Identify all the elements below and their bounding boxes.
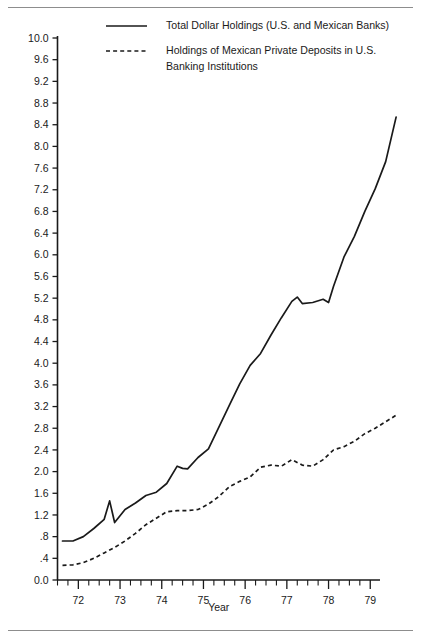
line-chart: 10.09.69.28.88.48.07.67.26.86.46.05.65.2… bbox=[0, 0, 421, 638]
y-tick-label: 4.8 bbox=[34, 313, 49, 325]
y-tick-label: 2.4 bbox=[34, 444, 49, 456]
y-axis-labels: 10.09.69.28.88.48.07.67.26.86.46.05.65.2… bbox=[28, 32, 49, 586]
x-axis-title: Year bbox=[208, 601, 230, 613]
y-tick-label: 6.8 bbox=[34, 205, 49, 217]
y-tick-label: 4.0 bbox=[34, 357, 49, 369]
y-tick-label: 1.2 bbox=[34, 509, 49, 521]
y-tick-label: 0.0 bbox=[34, 574, 49, 586]
legend-label-deposits-line1: Holdings of Mexican Private Deposits in … bbox=[166, 44, 376, 56]
y-tick-label: 2.0 bbox=[34, 465, 49, 477]
figure-container: 10.09.69.28.88.48.07.67.26.86.46.05.65.2… bbox=[0, 0, 421, 638]
legend-label-deposits-line2: Banking Institutions bbox=[166, 60, 258, 72]
y-tick-label: 9.6 bbox=[34, 53, 49, 65]
y-tick-label: 5.2 bbox=[34, 292, 49, 304]
y-tick-label: 8.8 bbox=[34, 97, 49, 109]
x-tick-label: 77 bbox=[281, 594, 293, 606]
series-mexican-private-deposits bbox=[63, 415, 397, 565]
y-tick-label: 10.0 bbox=[28, 32, 49, 44]
y-tick-label: 1.6 bbox=[34, 487, 49, 499]
x-tick-label: 73 bbox=[114, 594, 126, 606]
y-tick-label: 7.6 bbox=[34, 162, 49, 174]
legend: Total Dollar Holdings (U.S. and Mexican … bbox=[106, 19, 389, 72]
x-tick-label: 72 bbox=[73, 594, 85, 606]
y-tick-label: 4.4 bbox=[34, 335, 49, 347]
y-tick-label: 8.0 bbox=[34, 140, 49, 152]
y-tick-label: 3.2 bbox=[34, 400, 49, 412]
y-tick-label: 5.6 bbox=[34, 270, 49, 282]
legend-label-total: Total Dollar Holdings (U.S. and Mexican … bbox=[166, 19, 389, 31]
x-tick-label: 76 bbox=[239, 594, 251, 606]
y-tick-label: 3.6 bbox=[34, 378, 49, 390]
y-tick-label: 9.2 bbox=[34, 75, 49, 87]
x-tick-label: 79 bbox=[364, 594, 376, 606]
y-tick-label: 8.4 bbox=[34, 118, 49, 130]
y-tick-label: 2.8 bbox=[34, 422, 49, 434]
y-tick-label: 6.4 bbox=[34, 227, 49, 239]
series-total-dollar-holdings bbox=[63, 117, 397, 541]
y-tick-label: 6.0 bbox=[34, 248, 49, 260]
y-tick-label: 7.2 bbox=[34, 183, 49, 195]
y-tick-label: .4 bbox=[40, 552, 49, 564]
y-tick-label: .8 bbox=[40, 530, 49, 542]
x-tick-label: 74 bbox=[156, 594, 168, 606]
x-tick-label: 78 bbox=[323, 594, 335, 606]
x-axis-ticks bbox=[58, 580, 371, 589]
